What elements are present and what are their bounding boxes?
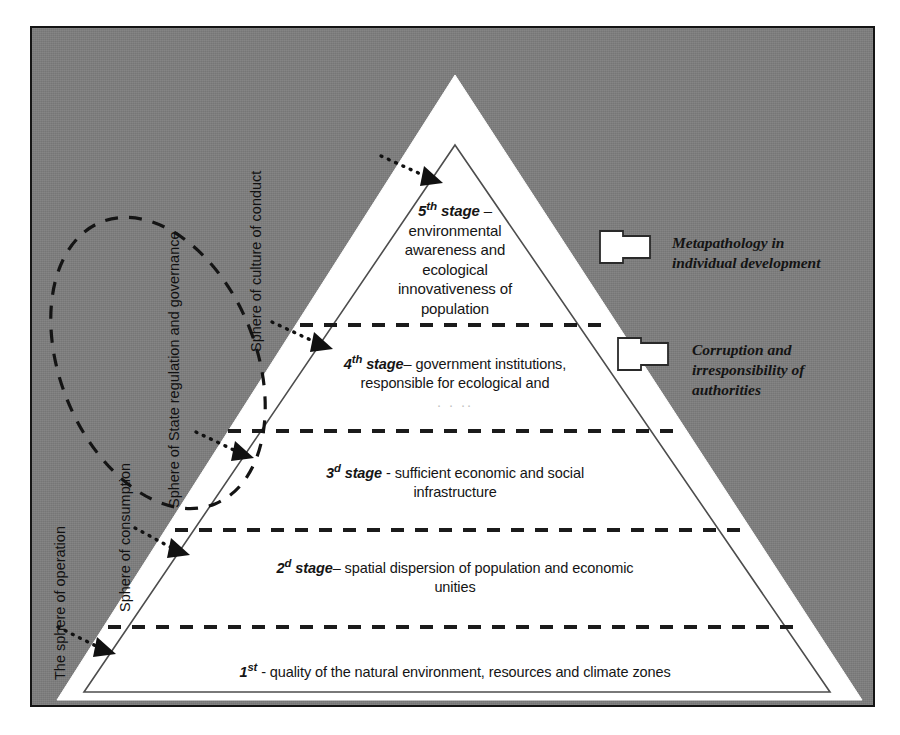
callout-arrow-corruption bbox=[618, 338, 668, 370]
diagram-canvas: 5th stage – environmental awareness and … bbox=[0, 0, 900, 735]
callout-arrow-metapathology bbox=[600, 231, 650, 263]
pyramid-vector-layer bbox=[0, 0, 900, 735]
outer-pyramid-shape bbox=[57, 75, 862, 700]
